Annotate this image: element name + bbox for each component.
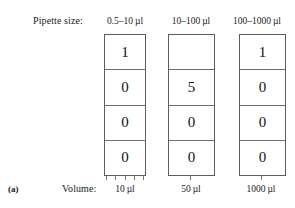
tick-mark [106, 176, 107, 180]
tick-mark [115, 176, 116, 180]
dial-tick-marks-2 [261, 176, 264, 181]
dial-tick-marks-0 [106, 176, 144, 181]
tick-mark [261, 176, 262, 180]
dial-digit-cell: 0 [240, 70, 285, 105]
pipette-dial-figure: Pipette size: 0.5–10 µl 10–100 µl 100–10… [0, 0, 295, 208]
column-header-pipette-1: 10–100 µl [165, 14, 217, 28]
dial-digit-cell: 0 [105, 106, 145, 141]
dial-digit-cell: 5 [169, 70, 214, 105]
dial-digit-cell: 0 [169, 141, 214, 175]
pipette-dial-column-1: 5 0 0 [168, 34, 215, 176]
tick-mark [134, 176, 135, 180]
column-header-pipette-2: 100–1000 µl [228, 14, 286, 28]
dial-digit-cell: 0 [105, 141, 145, 175]
pipette-dial-column-2: 1 0 0 0 [239, 34, 286, 176]
header-row: Pipette size: 0.5–10 µl 10–100 µl 100–10… [0, 14, 295, 28]
dial-digit-cell [169, 35, 214, 70]
pipette-size-label: Pipette size: [33, 14, 83, 28]
dial-digit-cell: 0 [169, 106, 214, 141]
dial-tick-marks-1 [190, 176, 193, 181]
column-header-pipette-0: 0.5–10 µl [99, 14, 151, 28]
column-footer-volume-2: 1000 µl [232, 182, 290, 196]
footer-row: (a) Volume: 10 µl 50 µl 1000 µl [0, 182, 295, 196]
panel-label: (a) [8, 182, 19, 196]
pipette-dial-column-0: 1 0 0 0 [104, 34, 146, 176]
column-footer-volume-1: 50 µl [165, 182, 217, 196]
dial-digit-cell: 0 [240, 141, 285, 175]
column-footer-volume-0: 10 µl [99, 182, 151, 196]
dial-digit-cell: 1 [240, 35, 285, 70]
dial-digit-cell: 1 [105, 35, 145, 70]
tick-mark [190, 176, 191, 180]
dial-digit-cell: 0 [105, 70, 145, 105]
tick-mark [125, 176, 126, 180]
volume-label: Volume: [62, 182, 96, 196]
dial-digit-cell: 0 [240, 106, 285, 141]
tick-mark [143, 176, 144, 180]
